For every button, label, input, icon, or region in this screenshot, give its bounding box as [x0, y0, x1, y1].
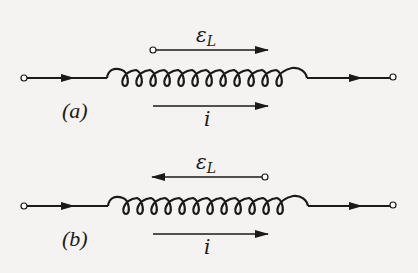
emf-label-a: εL — [196, 23, 216, 49]
emf-terminal-a — [150, 47, 156, 53]
left-terminal-b — [21, 203, 27, 209]
panel-label-b: (b) — [62, 226, 88, 251]
coil-b — [108, 196, 308, 214]
panel-a: εL i (a) — [21, 23, 396, 131]
emf-terminal-b — [262, 174, 268, 180]
inductor-diagram: εL i (a) εL — [0, 0, 418, 273]
current-label-a: i — [204, 107, 210, 131]
emf-label-b: εL — [196, 150, 216, 176]
right-terminal-a — [390, 74, 396, 80]
panel-b: εL i (b) — [21, 150, 396, 259]
inductor-a — [21, 68, 396, 86]
current-label-b: i — [204, 235, 210, 259]
left-terminal-a — [21, 75, 27, 81]
panel-label-a: (a) — [62, 98, 88, 123]
right-terminal-b — [390, 202, 396, 208]
inductor-b — [21, 196, 396, 214]
coil-a — [107, 68, 307, 86]
